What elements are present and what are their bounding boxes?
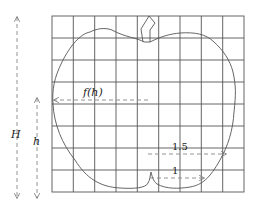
label-1: 1 — [172, 165, 178, 176]
label-H: H — [10, 128, 21, 141]
label-f-h: f(h) — [82, 86, 103, 99]
apple-grid-diagram: H h f(h) 1.5 1 — [0, 0, 256, 208]
apple-outline — [53, 29, 236, 189]
label-1-5: 1.5 — [172, 141, 188, 152]
label-h: h — [33, 135, 40, 148]
